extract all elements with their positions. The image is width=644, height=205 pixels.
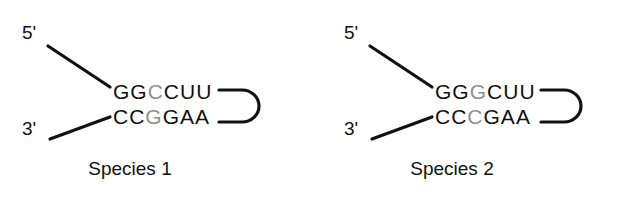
species-diagram-1: 5' 3' GGCCUU CCGGAA Species 1 bbox=[0, 0, 322, 205]
base-top-5: U bbox=[503, 80, 519, 103]
base-top-6: U bbox=[519, 80, 535, 103]
base-bottom-5: A bbox=[180, 105, 195, 128]
five-prime-strand-line bbox=[370, 46, 432, 87]
hairpin-loop-arc bbox=[541, 90, 581, 122]
base-bottom-3-variant: C bbox=[467, 105, 483, 128]
top-strand-sequence: GGGCUU bbox=[435, 80, 536, 104]
base-top-3-variant: G bbox=[470, 80, 487, 103]
base-top-2: G bbox=[452, 80, 469, 103]
base-bottom-6: A bbox=[195, 105, 210, 128]
base-top-1: G bbox=[113, 80, 130, 103]
top-strand-sequence: GGCCUU bbox=[113, 80, 212, 104]
base-bottom-3-variant: G bbox=[145, 105, 162, 128]
base-bottom-4: G bbox=[163, 105, 180, 128]
base-bottom-2: C bbox=[129, 105, 145, 128]
bottom-strand-sequence: CCCGAA bbox=[435, 105, 531, 129]
rna-hairpin-figure: 5' 3' GGCCUU CCGGAA Species 1 5' 3' GGGC… bbox=[0, 0, 644, 205]
base-bottom-1: C bbox=[435, 105, 451, 128]
base-top-6: U bbox=[196, 80, 212, 103]
hairpin-loop-arc bbox=[219, 90, 259, 122]
base-top-1: G bbox=[435, 80, 452, 103]
base-top-4: C bbox=[487, 80, 503, 103]
bottom-strand-sequence: CCGGAA bbox=[113, 105, 210, 129]
species-caption: Species 2 bbox=[322, 158, 582, 180]
base-top-4: C bbox=[164, 80, 180, 103]
base-top-3-variant: C bbox=[148, 80, 164, 103]
base-top-5: U bbox=[180, 80, 196, 103]
base-bottom-4: G bbox=[484, 105, 501, 128]
base-bottom-6: A bbox=[516, 105, 531, 128]
base-bottom-1: C bbox=[113, 105, 129, 128]
three-prime-strand-line bbox=[372, 117, 432, 139]
species-diagram-2: 5' 3' GGGCUU CCCGAA Species 2 bbox=[322, 0, 644, 205]
base-bottom-2: C bbox=[451, 105, 467, 128]
base-bottom-5: A bbox=[501, 105, 516, 128]
five-prime-strand-line bbox=[48, 46, 110, 87]
species-caption: Species 1 bbox=[0, 158, 260, 180]
three-prime-strand-line bbox=[50, 117, 110, 139]
base-top-2: G bbox=[130, 80, 147, 103]
